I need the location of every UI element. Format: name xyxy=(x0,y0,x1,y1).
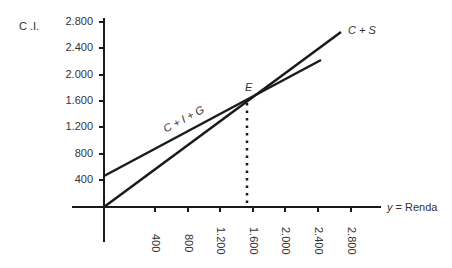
y-tick-label: 1.600 xyxy=(53,94,93,106)
x-axis-label: y = Renda xyxy=(387,201,437,213)
line-c-plus-i-plus-g xyxy=(104,60,321,176)
x-tick-label: 400 xyxy=(150,234,162,252)
x-tick-label: 2.400 xyxy=(313,227,325,255)
x-axis-text: = Renda xyxy=(396,201,438,213)
x-tick-label: 800 xyxy=(183,234,195,252)
y-tick-label: 2.000 xyxy=(53,68,93,80)
y-tick-label: 1.200 xyxy=(53,120,93,132)
x-tick-label: 1.200 xyxy=(215,227,227,255)
x-axis-variable: y xyxy=(387,201,393,213)
y-axis-label: C .I. xyxy=(19,20,39,32)
x-tick-label: 1.600 xyxy=(248,227,260,255)
y-tick-label: 400 xyxy=(53,173,93,185)
line-c-plus-s xyxy=(104,32,341,207)
x-tick-label: 2.800 xyxy=(346,227,358,255)
x-tick-label: 2.000 xyxy=(280,227,292,255)
equilibrium-label: E xyxy=(245,81,252,93)
y-tick-label: 800 xyxy=(53,147,93,159)
y-tick-label: 2.800 xyxy=(53,15,93,27)
line-label-c-plus-s: C + S xyxy=(348,24,376,36)
y-tick-label: 2.400 xyxy=(53,41,93,53)
